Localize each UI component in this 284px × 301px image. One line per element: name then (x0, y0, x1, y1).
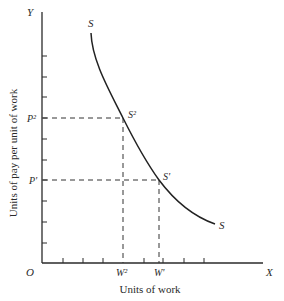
x-axis-ticks (63, 258, 204, 263)
s-bottom-label: S (219, 219, 225, 231)
x-axis-title: Units of work (119, 283, 181, 295)
origin-label: O (26, 266, 34, 278)
supply-curve (91, 33, 215, 224)
y-axis-ticks (42, 56, 47, 243)
y-axis-title: Units of pay per unit of work (7, 88, 19, 217)
s1-label: S' (163, 171, 171, 182)
w2-label: W² (116, 267, 128, 278)
guide-lines-s2 (43, 118, 123, 263)
w1-label: W' (154, 267, 165, 278)
s2-label: S² (128, 109, 137, 120)
x-axis-letter: X (265, 266, 274, 278)
p1-label: P' (28, 175, 38, 186)
s-top-label: S (88, 17, 94, 29)
supply-of-work-chart: Y X O Units of pay per unit of work Unit… (0, 0, 284, 301)
y-axis-letter: Y (27, 6, 35, 18)
p2-label: P² (26, 113, 37, 124)
guide-lines-s1 (43, 180, 159, 263)
